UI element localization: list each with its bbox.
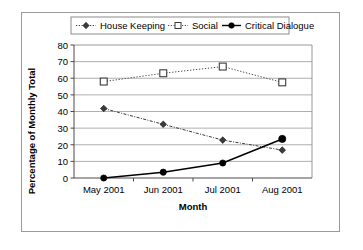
plot-area (71, 45, 313, 182)
data-point-social[interactable] (160, 70, 167, 77)
y-axis-tick-labels: 80 70 60 50 40 30 20 10 0 (57, 40, 68, 185)
x-axis-title: Month (179, 201, 208, 212)
y-tick-label: 60 (57, 73, 68, 84)
y-tick-label: 30 (57, 123, 68, 134)
y-tick-label: 40 (57, 106, 68, 117)
x-axis-ticks (134, 178, 253, 182)
data-point-critical-dialogue[interactable] (279, 135, 286, 142)
x-tick-label: Aug 2001 (262, 184, 303, 195)
x-tick-label: May 2001 (83, 184, 125, 195)
y-tick-label: 20 (57, 140, 68, 151)
data-point-social[interactable] (219, 63, 226, 70)
data-point-critical-dialogue[interactable] (220, 160, 226, 166)
y-tick-label: 10 (57, 156, 68, 167)
data-point-social[interactable] (279, 79, 286, 86)
y-tick-label: 70 (57, 56, 68, 67)
data-point-social[interactable] (100, 78, 107, 85)
y-tick-label: 80 (57, 40, 68, 51)
filled-circle-icon (229, 23, 235, 29)
x-axis-tick-labels: May 2001 Jun 2001 Jul 2001 Aug 2001 (83, 184, 303, 195)
x-tick-label: Jun 2001 (144, 184, 183, 195)
data-point-critical-dialogue[interactable] (101, 175, 107, 181)
legend-label-social: Social (192, 20, 218, 31)
y-axis-title: Percentage of Monthly Total (26, 68, 37, 195)
chart-legend: House Keeping Social Critical Dialogue (71, 17, 314, 34)
x-tick-label: Jul 2001 (205, 184, 241, 195)
y-tick-label: 0 (63, 173, 68, 184)
y-tick-label: 50 (57, 90, 68, 101)
legend-label-critical-dialogue: Critical Dialogue (245, 20, 314, 31)
legend-label-house-keeping: House Keeping (100, 20, 165, 31)
open-square-icon (175, 23, 181, 29)
y-axis-ticks (71, 45, 75, 178)
line-chart: House Keeping Social Critical Dialogue P… (22, 13, 339, 231)
data-point-critical-dialogue[interactable] (160, 169, 166, 175)
chart-frame: House Keeping Social Critical Dialogue P… (21, 12, 340, 232)
